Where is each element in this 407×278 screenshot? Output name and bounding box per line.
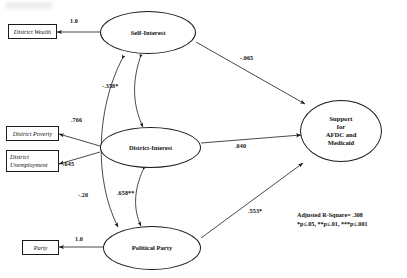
node-support-label-line4: Medicaid xyxy=(328,139,354,147)
node-self-interest: Self-Interest xyxy=(100,11,196,54)
covariance-district-interest-political-party xyxy=(136,170,143,226)
arrow-district-interest-to-poverty xyxy=(59,134,100,146)
path-label-district-interest-to-support: .040 xyxy=(235,143,246,149)
arrow-self-interest-to-support xyxy=(196,42,305,104)
node-district-poverty: District Poverty xyxy=(6,126,59,141)
node-political-party-label-line1: Political Party xyxy=(132,244,172,252)
footnote-block: Adjusted R-Square= .308 *p≤.05, **p≤.01,… xyxy=(297,211,367,229)
node-district-unemployment-label-line2: Unemployment xyxy=(10,161,47,169)
node-self-interest-label: Self-Interest xyxy=(131,29,166,37)
node-party-label: Party xyxy=(34,244,48,252)
node-district-wealth-label: District Wealth xyxy=(14,28,51,36)
node-support-afdc-medicaid: Support for AFDC and Medicaid xyxy=(300,100,382,162)
path-label-political-party-to-support: .553* xyxy=(248,208,262,214)
path-label-covariance-self-district: -.358* xyxy=(102,83,118,89)
node-district-unemployment: District Unemployment xyxy=(6,150,59,172)
node-district-wealth: District Wealth xyxy=(8,24,57,39)
node-support-label-line1: Support xyxy=(329,115,352,123)
covariance-self-interest-district-interest xyxy=(135,58,143,127)
node-district-interest: District-Interest xyxy=(100,127,201,168)
path-label-poverty-loading: .766 xyxy=(71,117,82,123)
node-support-label-line3: AFDC and xyxy=(326,131,357,139)
arrow-district-interest-to-support xyxy=(201,135,301,143)
path-label-self-interest-to-support: -.065 xyxy=(240,55,253,61)
node-political-party: Political Party xyxy=(103,226,201,270)
path-diagram: District Wealth District Poverty Distric… xyxy=(0,0,407,278)
node-district-unemployment-label-line1: District xyxy=(10,153,29,161)
path-label-covariance-district-party: .658** xyxy=(117,190,134,196)
path-label-wealth-loading: 1.0 xyxy=(70,18,78,24)
arrow-political-party-to-support xyxy=(201,163,303,238)
path-label-unemployment-loading: .645 xyxy=(63,161,74,167)
node-party: Party xyxy=(22,240,59,255)
node-support-label-line2: for xyxy=(337,123,345,131)
node-district-poverty-label: District Poverty xyxy=(13,130,53,138)
node-district-interest-label: District-Interest xyxy=(129,144,172,152)
footnote-adjusted-r-square: Adjusted R-Square= .308 xyxy=(297,211,367,220)
path-label-covariance-self-party: -.20 xyxy=(78,192,88,198)
path-label-party-loading: 1.0 xyxy=(75,236,83,242)
footnote-significance-key: *p≤.05, **p≤.01, ***p≤.001 xyxy=(297,220,367,229)
